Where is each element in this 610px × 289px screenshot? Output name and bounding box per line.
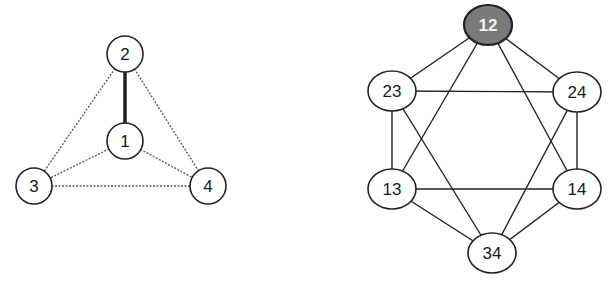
left-nodes: 1234 (16, 36, 226, 204)
edge-23-24 (392, 91, 577, 92)
left-edges (34, 54, 208, 186)
node-label: 13 (383, 180, 402, 199)
node-23: 23 (368, 71, 416, 111)
line-graph: 122324131434 (368, 5, 601, 273)
graph-diagram: 1234 122324131434 (0, 0, 610, 289)
node-label: 24 (568, 83, 587, 102)
node-label: 23 (383, 82, 402, 101)
node-label: 14 (568, 180, 587, 199)
node-2: 2 (107, 36, 143, 72)
node-12: 12 (464, 5, 512, 45)
node-label: 2 (120, 45, 129, 64)
node-13: 13 (368, 169, 416, 209)
node-14: 14 (553, 169, 601, 209)
edge-2-3 (34, 54, 125, 186)
node-label: 34 (483, 244, 502, 263)
node-label: 3 (29, 177, 38, 196)
node-4: 4 (190, 168, 226, 204)
node-34: 34 (468, 233, 516, 273)
node-24: 24 (553, 72, 601, 112)
edge-23-34 (392, 91, 492, 253)
node-label: 12 (479, 16, 498, 35)
tetrahedron-graph: 1234 (16, 36, 226, 204)
node-1: 1 (107, 123, 143, 159)
right-nodes: 122324131434 (368, 5, 601, 273)
node-label: 4 (203, 177, 212, 196)
right-edges (392, 25, 577, 253)
node-label: 1 (120, 132, 129, 151)
node-3: 3 (16, 168, 52, 204)
edge-2-4 (125, 54, 208, 186)
